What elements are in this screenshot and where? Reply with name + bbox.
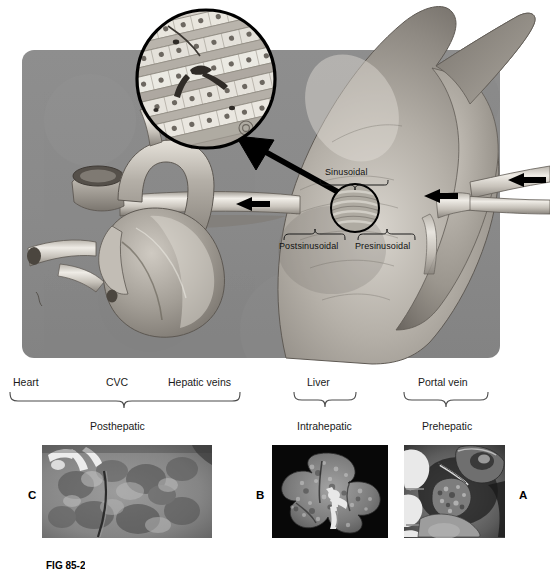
- panel-letter-c: C: [28, 489, 36, 501]
- photo-a-prehepatic: [404, 445, 505, 538]
- figure-portal-hypertension: Sinusoidal Postsinusoidal Presinusoidal …: [0, 0, 550, 572]
- brace-intrahepatic: [294, 392, 356, 407]
- panel-letter-a: A: [519, 489, 527, 501]
- brace-posthepatic: [10, 392, 240, 408]
- classification-bands: Heart CVC Hepatic veins Liver Portal vei…: [0, 372, 550, 440]
- category-intrahepatic: Intrahepatic: [297, 420, 352, 432]
- label-sinusoidal: Sinusoidal: [325, 167, 368, 177]
- label-presinusoidal: Presinusoidal: [355, 241, 410, 251]
- anatomical-illustration: Sinusoidal Postsinusoidal Presinusoidal: [0, 0, 550, 372]
- category-posthepatic: Posthepatic: [90, 420, 145, 432]
- photo-c-posthepatic: [42, 445, 212, 538]
- band-label-hepatic-veins: Hepatic veins: [168, 376, 231, 388]
- band-label-cvc: CVC: [106, 376, 128, 388]
- figure-caption: FIG 85-2: [46, 560, 85, 572]
- band-label-liver: Liver: [307, 376, 330, 388]
- photo-b-intrahepatic: [272, 445, 388, 538]
- panel-letter-b: B: [256, 489, 264, 501]
- label-postsinusoidal: Postsinusoidal: [279, 241, 338, 251]
- band-label-heart: Heart: [13, 376, 39, 388]
- brace-prehepatic: [404, 392, 488, 407]
- band-label-portal-vein: Portal vein: [418, 376, 468, 388]
- category-prehepatic: Prehepatic: [422, 420, 472, 432]
